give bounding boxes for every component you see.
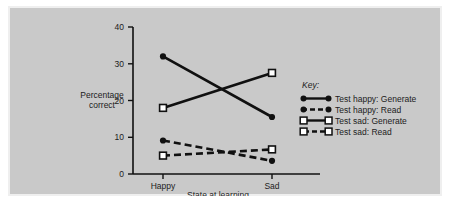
legend-marker-filled-circle-1 <box>301 96 307 102</box>
series-test-happy-generate <box>160 53 275 120</box>
series-line-test-sad-generate <box>163 73 272 108</box>
legend-label-test-happy-generate: Test happy: Generate <box>335 94 417 104</box>
y-tick-label-0: 0 <box>119 169 124 179</box>
legend-marker-filled-circle-4 <box>326 107 332 113</box>
figure-root: 40 30 20 10 0 Happy Sad State at learnin… <box>0 0 450 217</box>
legend-item-test-happy-generate[interactable]: Test happy: Generate <box>301 94 417 104</box>
figure-panel: 40 30 20 10 0 Happy Sad State at learnin… <box>8 6 442 196</box>
legend-marker-open-square-1 <box>300 117 307 124</box>
series-test-sad-generate <box>160 70 276 112</box>
page-bottom-margin <box>0 196 450 217</box>
y-tick-labels: 40 30 20 10 0 <box>115 22 125 179</box>
series-test-sad-read <box>160 146 276 159</box>
legend-marker-open-square-4 <box>325 128 332 135</box>
legend-marker-open-square-3 <box>300 128 307 135</box>
y-tick-label-40: 40 <box>115 22 125 32</box>
data-point-sad-generate-sad <box>269 70 276 77</box>
data-point-sad-read-sad <box>269 146 276 153</box>
legend-item-test-happy-read[interactable]: Test happy: Read <box>301 105 402 115</box>
data-point-happy-read-sad <box>269 158 275 164</box>
legend-label-test-happy-read: Test happy: Read <box>335 105 401 115</box>
line-chart: 40 30 20 10 0 Happy Sad State at learnin… <box>10 8 444 198</box>
legend-label-test-sad-read: Test sad: Read <box>335 127 392 137</box>
data-point-happy-generate-happy <box>160 53 166 59</box>
x-tick-label-happy: Happy <box>151 181 176 191</box>
legend-item-test-sad-read[interactable]: Test sad: Read <box>300 127 392 137</box>
axes-group <box>128 27 320 179</box>
legend-item-test-sad-generate[interactable]: Test sad: Generate <box>300 116 407 126</box>
y-axis-title-line1: Percentage <box>80 90 124 100</box>
data-point-sad-read-happy <box>160 152 167 159</box>
legend-label-test-sad-generate: Test sad: Generate <box>335 116 407 126</box>
y-axis-title-line2: correct <box>89 100 116 110</box>
series-line-test-happy-generate <box>163 56 272 117</box>
y-tick-label-10: 10 <box>115 132 125 142</box>
legend-title: Key: <box>302 80 320 90</box>
y-tick-label-30: 30 <box>115 59 125 69</box>
data-point-happy-read-happy <box>160 137 166 143</box>
legend-marker-open-square-2 <box>325 117 332 124</box>
data-point-sad-generate-happy <box>160 105 167 112</box>
data-point-happy-generate-sad <box>269 114 275 120</box>
legend-marker-filled-circle-3 <box>301 107 307 113</box>
legend: Key: Test happy: Generate Test happy: Re… <box>300 80 416 137</box>
legend-marker-filled-circle-2 <box>326 96 332 102</box>
x-tick-label-sad: Sad <box>264 181 279 191</box>
